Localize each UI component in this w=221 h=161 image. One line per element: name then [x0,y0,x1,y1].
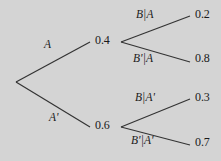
node-value-p-A-prime: 0.6 [95,119,110,131]
edge-label-B-given-A-prime: B|A' [135,92,155,104]
tree-edges [0,0,221,161]
edge-A-to-B [121,16,190,42]
leaf-value-p-B-given-A-prime: 0.3 [195,91,210,103]
edge-label-A: A [44,39,51,51]
probability-tree-figure: A A' 0.4 0.6 B|A B'|A B|A' B'|A' 0.2 0.8… [0,0,221,161]
edge-label-B-prime-given-A-prime: B'|A' [131,135,154,147]
edge-label-B-prime-given-A: B'|A [133,53,153,65]
edge-label-B-given-A: B|A [136,9,154,21]
leaf-value-p-B-given-A: 0.2 [195,8,210,20]
node-value-p-A: 0.4 [95,34,110,46]
edge-A-to-Bprime [121,42,190,62]
leaf-value-p-B-prime-given-A-prime: 0.7 [195,136,210,148]
edge-root-to-A [16,42,90,82]
leaf-value-p-B-prime-given-A: 0.8 [195,52,210,64]
edge-Aprime-to-B [121,99,190,127]
edge-label-A-prime: A' [49,112,59,124]
